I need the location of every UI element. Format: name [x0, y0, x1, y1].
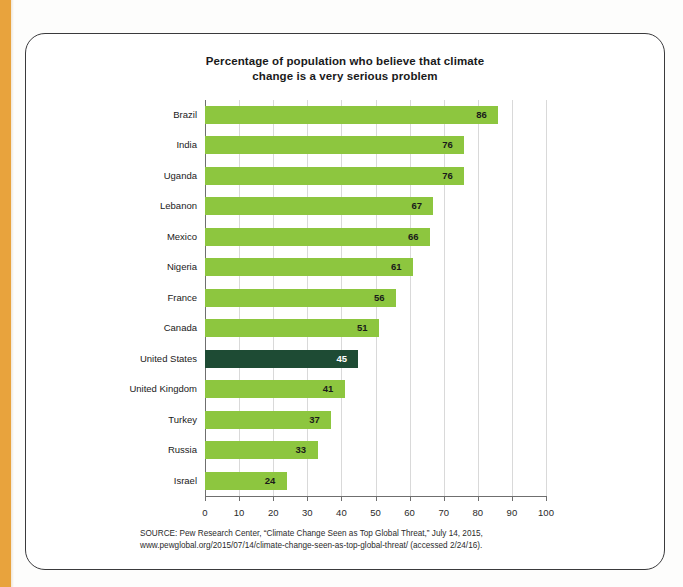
x-axis-tick-label: 90	[507, 507, 518, 518]
bar-value-label: 67	[411, 197, 422, 215]
bar[interactable]	[205, 228, 430, 246]
x-axis-tick-label: 30	[302, 507, 313, 518]
x-axis-tick-label: 10	[234, 507, 245, 518]
bar-row[interactable]: Mexico66	[205, 222, 546, 252]
x-axis-tick	[273, 496, 274, 501]
bar-value-label: 61	[391, 258, 402, 276]
bar-row[interactable]: India76	[205, 130, 546, 160]
bar-value-label: 41	[323, 380, 334, 398]
bar[interactable]	[205, 106, 498, 124]
category-label: Lebanon	[160, 197, 197, 215]
chart-title: Percentage of population who believe tha…	[26, 54, 664, 84]
source-note-line-2: www.pewglobal.org/2015/07/14/climate-cha…	[140, 540, 610, 552]
chart-title-line-1: Percentage of population who believe tha…	[26, 54, 664, 69]
bar-row[interactable]: France56	[205, 283, 546, 313]
category-label: United Kingdom	[129, 380, 197, 398]
category-label: Turkey	[168, 411, 197, 429]
category-label: France	[167, 289, 197, 307]
x-axis-tick-label: 20	[268, 507, 279, 518]
page-gutter-shadow	[11, 0, 14, 587]
bar-value-label: 86	[476, 106, 487, 124]
category-label: Mexico	[167, 228, 197, 246]
bar-value-label: 51	[357, 319, 368, 337]
source-note: SOURCE: Pew Research Center, “Climate Ch…	[140, 528, 610, 552]
bar[interactable]	[205, 350, 358, 368]
category-label: Nigeria	[167, 258, 197, 276]
x-axis-tick-label: 80	[473, 507, 484, 518]
bar-value-label: 66	[408, 228, 419, 246]
bar-value-label: 56	[374, 289, 385, 307]
bar-row[interactable]: Russia33	[205, 435, 546, 465]
x-axis-tick	[205, 496, 206, 501]
category-label: United States	[140, 350, 197, 368]
bar-value-label: 33	[296, 441, 307, 459]
bar-chart-plot-area: 0102030405060708090100Brazil86India76Uga…	[205, 100, 546, 496]
bar-value-label: 24	[265, 472, 276, 490]
x-axis-tick	[410, 496, 411, 501]
x-axis-tick	[376, 496, 377, 501]
category-label: Uganda	[164, 167, 197, 185]
x-axis-tick-label: 70	[438, 507, 449, 518]
bar-row[interactable]: Nigeria61	[205, 252, 546, 282]
source-note-line-1: SOURCE: Pew Research Center, “Climate Ch…	[140, 528, 610, 540]
category-label: Israel	[174, 472, 197, 490]
bar[interactable]	[205, 136, 464, 154]
figure-frame: Percentage of population who believe tha…	[25, 33, 665, 570]
bar-row[interactable]: Brazil86	[205, 100, 546, 130]
x-axis-tick	[546, 496, 547, 501]
x-axis-tick	[341, 496, 342, 501]
chart-title-line-2: change is a very serious problem	[26, 69, 664, 84]
x-axis-tick-label: 0	[202, 507, 207, 518]
x-axis-tick	[444, 496, 445, 501]
bar[interactable]	[205, 319, 379, 337]
bar-row[interactable]: Israel24	[205, 466, 546, 496]
category-label: Brazil	[173, 106, 197, 124]
x-axis-tick-label: 40	[336, 507, 347, 518]
x-axis-tick-label: 50	[370, 507, 381, 518]
bar-value-label: 76	[442, 136, 453, 154]
category-label: India	[176, 136, 197, 154]
bar-value-label: 37	[309, 411, 320, 429]
bar[interactable]	[205, 167, 464, 185]
bar[interactable]	[205, 258, 413, 276]
category-label: Russia	[168, 441, 197, 459]
bar-row[interactable]: United Kingdom41	[205, 374, 546, 404]
bar-row[interactable]: Lebanon67	[205, 191, 546, 221]
page-accent-spine	[0, 0, 11, 587]
bar-value-label: 45	[336, 350, 347, 368]
bar-value-label: 76	[442, 167, 453, 185]
x-axis-tick	[307, 496, 308, 501]
category-label: Canada	[164, 319, 197, 337]
cut-off-top-text	[26, 0, 626, 4]
bar-row[interactable]: Uganda76	[205, 161, 546, 191]
bar[interactable]	[205, 197, 433, 215]
bar-row[interactable]: United States45	[205, 344, 546, 374]
bar-row[interactable]: Canada51	[205, 313, 546, 343]
x-axis-tick-label: 60	[404, 507, 415, 518]
x-axis-tick	[239, 496, 240, 501]
bar-row[interactable]: Turkey37	[205, 405, 546, 435]
x-axis-tick	[478, 496, 479, 501]
x-axis-tick-label: 100	[538, 507, 554, 518]
bar[interactable]	[205, 289, 396, 307]
x-gridline	[546, 100, 547, 496]
x-axis-tick	[512, 496, 513, 501]
